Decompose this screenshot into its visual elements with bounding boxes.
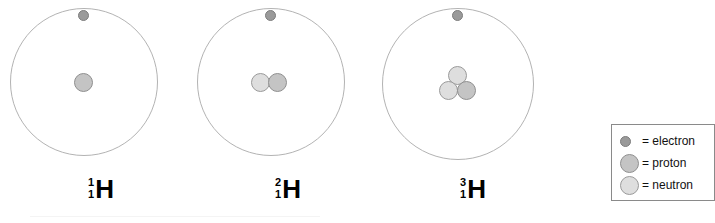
isotope-affixes: 1 1 <box>88 177 94 200</box>
electron-particle <box>78 10 89 21</box>
legend-label-neutron: = neutron <box>642 178 693 192</box>
isotope-affixes: 2 1 <box>275 177 281 200</box>
electron-particle <box>452 10 463 21</box>
legend-box: = electron = proton = neutron <box>611 124 715 201</box>
legend-item-electron: = electron <box>620 130 714 152</box>
proton-particle <box>74 73 93 92</box>
atomic-number: 1 <box>460 189 466 201</box>
atomic-number: 1 <box>88 189 94 201</box>
legend-label-electron: = electron <box>642 134 695 148</box>
proton-marker-icon <box>620 154 642 173</box>
isotope-label-protium: 1 1 H <box>6 176 196 202</box>
legend-label-proton: = proton <box>642 156 686 170</box>
electron-marker-icon <box>620 136 642 147</box>
isotope-affixes: 3 1 <box>460 177 466 200</box>
neutron-particle-left <box>439 81 458 100</box>
proton-particle <box>457 81 476 100</box>
neutron-marker-icon <box>620 176 642 195</box>
atom-diagram-tritium: 3 1 H <box>378 0 568 210</box>
element-symbol: H <box>282 176 301 202</box>
isotope-label-tritium: 3 1 H <box>378 176 568 202</box>
isotope-label-deuterium: 2 1 H <box>193 176 383 202</box>
element-symbol: H <box>467 176 486 202</box>
neutron-swatch <box>620 176 639 195</box>
atomic-number: 1 <box>275 189 281 201</box>
proton-particle <box>268 73 287 92</box>
scan-artifact-line <box>30 216 320 217</box>
electron-particle <box>265 10 276 21</box>
legend-item-neutron: = neutron <box>620 174 714 196</box>
atom-diagram-deuterium: 2 1 H <box>193 0 383 210</box>
element-symbol: H <box>95 176 114 202</box>
proton-swatch <box>620 154 639 173</box>
atom-diagram-protium: 1 1 H <box>6 0 196 210</box>
electron-swatch <box>620 136 631 147</box>
legend-item-proton: = proton <box>620 152 714 174</box>
